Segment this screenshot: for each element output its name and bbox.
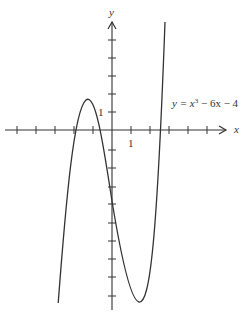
equation-label: y = x3 − 6x − 4	[171, 97, 239, 109]
y-axis-label: y	[108, 6, 114, 18]
y-tick-label-1: 1	[98, 106, 104, 118]
x-tick-label-1: 1	[128, 137, 134, 149]
function-graph: y x 1 1 y = x3 − 6x − 4	[0, 0, 245, 321]
x-axis-label: x	[233, 123, 239, 135]
